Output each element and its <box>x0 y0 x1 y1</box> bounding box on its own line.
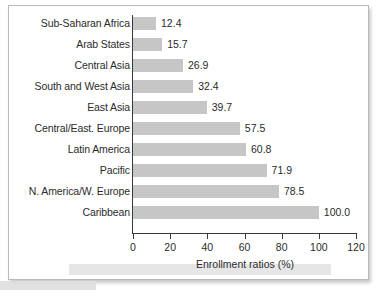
bar <box>133 185 279 198</box>
bar-value-label: 12.4 <box>161 17 181 30</box>
x-axis-tick <box>133 234 134 239</box>
bar-row: Pacific71.9 <box>0 164 383 185</box>
bar-row: South and West Asia32.4 <box>0 80 383 101</box>
bar-value-label: 26.9 <box>188 59 208 72</box>
category-label: Pacific <box>4 164 130 177</box>
x-axis-tick-label: 100 <box>299 241 339 254</box>
x-axis-tick <box>245 234 246 239</box>
bar-value-label: 39.7 <box>212 101 232 114</box>
bar-row: Central Asia26.9 <box>0 59 383 80</box>
category-label-wrap: Arab States <box>2 38 130 51</box>
category-label-wrap: East Asia <box>2 101 130 114</box>
x-axis-tick <box>282 234 283 239</box>
bar-row: Arab States15.7 <box>0 38 383 59</box>
bar-row: East Asia39.7 <box>0 101 383 122</box>
category-label: Central/East. Europe <box>4 122 130 135</box>
bar-row: Central/East. Europe57.5 <box>0 122 383 143</box>
x-axis-tick <box>207 234 208 239</box>
bar-value-label: 100.0 <box>324 206 350 219</box>
bar <box>133 59 183 72</box>
bar <box>133 80 193 93</box>
category-label-wrap: Central/East. Europe <box>2 122 130 135</box>
category-label-wrap: Sub-Saharan Africa <box>2 17 130 30</box>
x-axis-tick-label: 120 <box>336 241 376 254</box>
bar-value-label: 32.4 <box>198 80 218 93</box>
category-label-wrap: Latin America <box>2 143 130 156</box>
category-label: South and West Asia <box>4 80 130 93</box>
x-axis-tick-label: 60 <box>225 241 265 254</box>
bar-row: Sub-Saharan Africa12.4 <box>0 17 383 38</box>
category-label: Sub-Saharan Africa <box>4 17 130 30</box>
bar-value-label: 78.5 <box>284 185 304 198</box>
bar-row: Latin America60.8 <box>0 143 383 164</box>
bar <box>133 143 246 156</box>
category-label: Latin America <box>4 143 130 156</box>
category-label-wrap: Central Asia <box>2 59 130 72</box>
x-axis-tick-label: 40 <box>187 241 227 254</box>
category-label: Central Asia <box>4 59 130 72</box>
category-label: East Asia <box>4 101 130 114</box>
bar <box>133 101 207 114</box>
bar-value-label: 71.9 <box>272 164 292 177</box>
category-label-wrap: South and West Asia <box>2 80 130 93</box>
bar <box>133 17 156 30</box>
bar-value-label: 57.5 <box>245 122 265 135</box>
bar <box>133 164 267 177</box>
bar <box>133 122 240 135</box>
bar-row: N. America/W. Europe78.5 <box>0 185 383 206</box>
x-axis-tick-label: 20 <box>150 241 190 254</box>
bar-value-label: 15.7 <box>167 38 187 51</box>
bar-value-label: 60.8 <box>251 143 271 156</box>
category-label: Caribbean <box>4 206 130 219</box>
x-axis-title: Enrollment ratios (%) <box>133 258 357 271</box>
category-label-wrap: N. America/W. Europe <box>2 185 130 198</box>
x-axis-tick <box>170 234 171 239</box>
category-label-wrap: Pacific <box>2 164 130 177</box>
x-axis-tick-label: 80 <box>262 241 302 254</box>
x-axis-tick <box>356 234 357 239</box>
x-axis-tick <box>319 234 320 239</box>
x-axis-tick-label: 0 <box>113 241 153 254</box>
bar-chart-plot: Sub-Saharan Africa12.4Arab States15.7Cen… <box>0 0 383 294</box>
bar <box>133 206 319 219</box>
bar-row: Caribbean100.0 <box>0 206 383 227</box>
bar <box>133 38 162 51</box>
category-label-wrap: Caribbean <box>2 206 130 219</box>
category-label: Arab States <box>4 38 130 51</box>
category-label: N. America/W. Europe <box>4 185 130 198</box>
